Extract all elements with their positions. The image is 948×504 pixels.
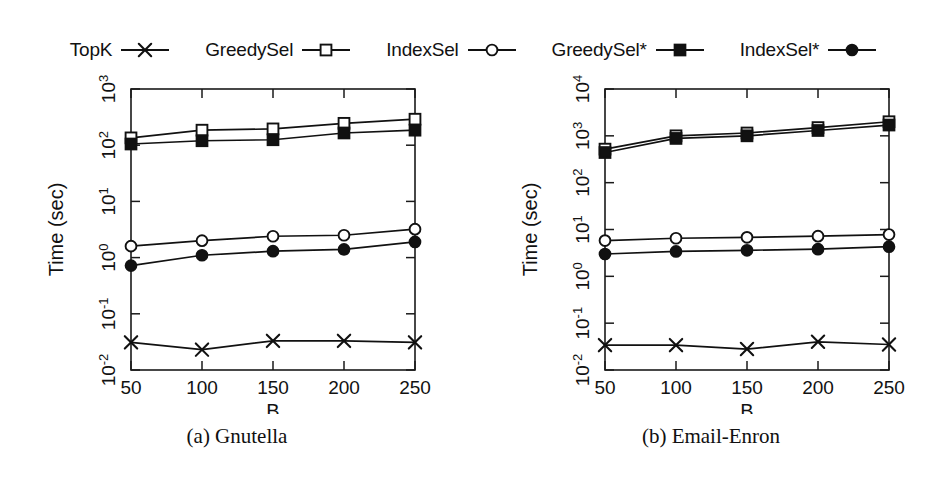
marker-circle-filled — [742, 245, 753, 256]
marker-circle-open — [813, 231, 824, 242]
marker-circle-filled — [339, 244, 350, 255]
x-tick-label: 100 — [186, 377, 218, 398]
y-axis: 10-210-1100101102103104 — [570, 75, 889, 387]
marker-square-filled — [674, 45, 685, 56]
legend-label: GreedySel — [205, 39, 293, 61]
marker-circle-filled — [268, 246, 279, 257]
legend-entry-greedysel: GreedySel — [205, 39, 352, 61]
marker-circle-filled — [884, 241, 895, 252]
marker-square-filled — [268, 134, 279, 145]
marker-square-filled — [126, 139, 137, 150]
legend-label: IndexSel — [386, 39, 458, 61]
y-axis-title: Time (sec) — [519, 183, 541, 277]
marker-square-filled — [600, 147, 611, 158]
y-tick-label: 103 — [570, 122, 593, 150]
marker-square-open — [321, 45, 332, 56]
marker-circle-filled — [671, 246, 682, 257]
marker-circle-open — [339, 230, 350, 241]
marker-circle-filled — [847, 45, 858, 56]
legend-marker-sample — [119, 39, 171, 61]
marker-square-open — [268, 124, 279, 135]
series-indexsel — [600, 229, 895, 246]
chart-panel-email-enron: 10-210-1100101102103104Time (sec)5010015… — [474, 74, 948, 414]
y-tick-label: 10-1 — [96, 297, 119, 330]
y-tick-label: 100 — [570, 262, 593, 290]
y-tick-label: 101 — [96, 187, 119, 215]
marker-circle-open — [197, 235, 208, 246]
marker-circle-open — [671, 233, 682, 244]
marker-circle-open — [742, 232, 753, 243]
marker-circle-open — [410, 224, 421, 235]
caption-panel-b: (b) Email-Enron — [474, 424, 948, 449]
marker-circle-filled — [410, 237, 421, 248]
series-indexsel-star — [600, 241, 895, 259]
marker-square-filled — [884, 120, 895, 131]
y-tick-label: 10-2 — [96, 354, 119, 387]
marker-square-open — [197, 125, 208, 136]
marker-circle-open — [486, 45, 497, 56]
series-topk — [599, 336, 895, 356]
figure-root: TopKGreedySelIndexSelGreedySel*IndexSel*… — [0, 0, 948, 504]
chart-legend: TopKGreedySelIndexSelGreedySel*IndexSel* — [0, 30, 948, 70]
legend-label: GreedySel* — [552, 39, 647, 61]
legend-marker-sample — [826, 39, 878, 61]
y-tick-label: 101 — [570, 215, 593, 243]
marker-square-filled — [671, 133, 682, 144]
marker-square-filled — [339, 128, 350, 139]
y-tick-label: 10-1 — [570, 307, 593, 340]
legend-marker-sample — [466, 39, 518, 61]
legend-entry-indexsel-star: IndexSel* — [740, 39, 879, 61]
charts-area: 10-210-1100101102103Time (sec)5010015020… — [0, 74, 948, 414]
y-axis-title: Time (sec) — [45, 183, 67, 277]
legend-label: TopK — [70, 39, 113, 61]
y-tick-label: 10-2 — [570, 354, 593, 387]
x-tick-label: 250 — [399, 377, 431, 398]
legend-entry-greedysel-star: GreedySel* — [552, 39, 706, 61]
marker-circle-filled — [600, 249, 611, 260]
plot-a: 10-210-1100101102103Time (sec)5010015020… — [0, 74, 474, 414]
legend-label: IndexSel* — [740, 39, 820, 61]
y-tick-label: 102 — [570, 168, 593, 196]
y-tick-label: 103 — [96, 75, 119, 103]
legend-marker-sample — [654, 39, 706, 61]
legend-entry-indexsel: IndexSel — [386, 39, 517, 61]
marker-circle-open — [268, 231, 279, 242]
y-tick-label: 102 — [96, 131, 119, 159]
marker-square-filled — [813, 125, 824, 136]
x-tick-label: 100 — [660, 377, 692, 398]
caption-panel-a: (a) Gnutella — [0, 424, 474, 449]
marker-circle-open — [884, 229, 895, 240]
marker-circle-open — [126, 241, 137, 252]
x-tick-label: 50 — [594, 377, 615, 398]
x-tick-label: 250 — [873, 377, 905, 398]
x-tick-label: 150 — [257, 377, 289, 398]
captions-row: (a) Gnutella (b) Email-Enron — [0, 424, 948, 464]
marker-circle-filled — [126, 260, 137, 271]
series-topk — [125, 335, 421, 356]
legend-entry-topk: TopK — [70, 39, 172, 61]
x-axis-title: B — [266, 400, 279, 414]
legend-marker-sample — [300, 39, 352, 61]
y-tick-label: 100 — [96, 243, 119, 271]
x-axis-title: B — [740, 400, 753, 414]
marker-square-filled — [410, 125, 421, 136]
marker-circle-open — [600, 235, 611, 246]
marker-square-filled — [742, 130, 753, 141]
marker-square-filled — [197, 135, 208, 146]
marker-circle-filled — [813, 244, 824, 255]
x-tick-label: 200 — [802, 377, 834, 398]
x-tick-label: 200 — [328, 377, 360, 398]
chart-panel-gnutella: 10-210-1100101102103Time (sec)5010015020… — [0, 74, 474, 414]
x-tick-label: 150 — [731, 377, 763, 398]
marker-square-open — [410, 114, 421, 125]
y-tick-label: 104 — [570, 75, 593, 103]
x-tick-label: 50 — [120, 377, 141, 398]
plot-b: 10-210-1100101102103104Time (sec)5010015… — [474, 74, 948, 414]
marker-circle-filled — [197, 250, 208, 261]
